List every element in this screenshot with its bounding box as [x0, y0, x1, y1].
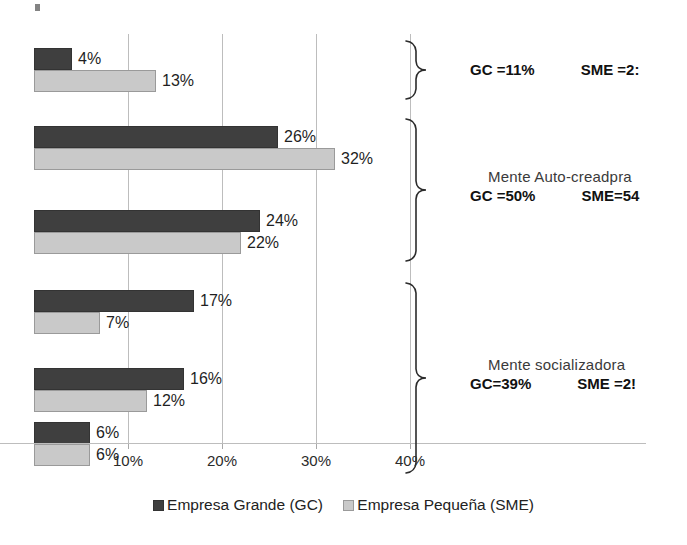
bar-sme-2[interactable] — [34, 148, 335, 170]
bar-value-label-sme-3: 22% — [247, 232, 279, 254]
annotation-gc-value-1: GC =11% — [470, 61, 535, 78]
gridline-30 — [316, 34, 317, 444]
chart-legend: Empresa Grande (GC) Empresa Pequeña (SME… — [0, 496, 687, 514]
plot-area: 4%13%26%32%24%22%17%7%16%12%6%6% — [34, 34, 410, 444]
bar-value-label-gc-3: 24% — [266, 210, 298, 232]
legend-label-sme: Empresa Pequeña (SME) — [357, 496, 534, 513]
bar-gc-5[interactable] — [34, 368, 184, 390]
legend-label-gc: Empresa Grande (GC) — [167, 496, 323, 513]
bar-value-label-gc-6: 6% — [96, 422, 119, 444]
annotation-block-1: GC =11%SME =2: — [470, 59, 639, 78]
bar-value-label-sme-5: 12% — [153, 390, 185, 412]
brace-2 — [404, 118, 428, 262]
bar-sme-3[interactable] — [34, 232, 241, 254]
bar-value-label-sme-2: 32% — [341, 148, 373, 170]
legend-item-sme[interactable]: Empresa Pequeña (SME) — [343, 496, 534, 514]
annotation-title-3: Mente socializadora — [488, 356, 636, 373]
bar-value-label-gc-5: 16% — [190, 368, 222, 390]
x-tick-mark-10 — [128, 444, 129, 449]
bar-value-label-gc-4: 17% — [200, 290, 232, 312]
bar-value-label-gc-2: 26% — [284, 126, 316, 148]
x-tick-label-20: 20% — [207, 452, 237, 469]
bar-gc-1[interactable] — [34, 48, 72, 70]
bar-gc-4[interactable] — [34, 290, 194, 312]
legend-item-gc[interactable]: Empresa Grande (GC) — [153, 496, 323, 514]
brace-3 — [404, 282, 428, 474]
bar-gc-3[interactable] — [34, 210, 260, 232]
bar-chart: 4%13%26%32%24%22%17%7%16%12%6%6% 10%20%3… — [0, 0, 687, 545]
annotation-stats-3: GC=39%SME =2! — [470, 375, 636, 392]
annotation-block-3: Mente socializadoraGC=39%SME =2! — [470, 356, 636, 392]
scan-artifact — [35, 4, 40, 11]
annotation-sme-value-1: SME =2: — [581, 61, 640, 78]
legend-swatch-gc-icon — [153, 500, 164, 511]
annotation-title-2: Mente Auto-creadpra — [488, 168, 639, 185]
annotation-gc-value-3: GC=39% — [470, 375, 531, 392]
brace-1 — [404, 40, 428, 100]
annotation-sme-value-2: SME=54 — [581, 187, 639, 204]
bar-gc-6[interactable] — [34, 422, 90, 444]
x-axis-line — [0, 443, 646, 444]
annotation-stats-1: GC =11%SME =2: — [470, 61, 639, 78]
x-tick-label-10: 10% — [113, 452, 143, 469]
annotation-sme-value-3: SME =2! — [577, 375, 636, 392]
bar-gc-2[interactable] — [34, 126, 278, 148]
bar-value-label-gc-1: 4% — [78, 48, 101, 70]
bar-sme-1[interactable] — [34, 70, 156, 92]
x-tick-mark-20 — [222, 444, 223, 449]
bar-sme-6[interactable] — [34, 444, 90, 466]
legend-swatch-sme-icon — [343, 500, 354, 511]
annotation-gc-value-2: GC =50% — [470, 187, 535, 204]
bar-value-label-sme-1: 13% — [162, 70, 194, 92]
x-tick-mark-30 — [316, 444, 317, 449]
bar-sme-4[interactable] — [34, 312, 100, 334]
annotation-stats-2: GC =50%SME=54 — [470, 187, 639, 204]
bar-sme-5[interactable] — [34, 390, 147, 412]
bar-value-label-sme-4: 7% — [106, 312, 129, 334]
x-tick-label-30: 30% — [301, 452, 331, 469]
annotation-block-2: Mente Auto-creadpraGC =50%SME=54 — [470, 168, 639, 204]
